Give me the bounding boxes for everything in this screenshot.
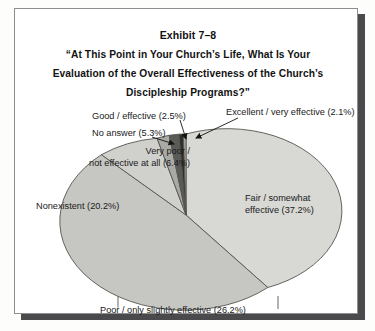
label-good: Good / effective (2.5%) — [92, 111, 186, 123]
label-very-poor-line1: Very poor / — [42, 146, 190, 158]
label-fair-line2: effective (37.2%) — [245, 205, 314, 217]
label-excellent: Excellent / very effective (2.1%) — [226, 107, 355, 119]
label-poor: Poor / only slightly effective (26.2%) — [100, 305, 246, 317]
label-fair-line1: Fair / somewhat — [245, 193, 314, 205]
label-no-answer: No answer (5.3%) — [92, 128, 166, 140]
label-very-poor-line2: not effective at all (6.4%) — [42, 158, 190, 170]
label-very-poor: Very poor / not effective at all (6.4%) — [42, 146, 190, 169]
label-nonexistent: Nonexistent (20.2%) — [36, 201, 119, 213]
pie-chart-figure: Exhibit 7–8 “At This Point in Your Churc… — [14, 8, 358, 314]
figure-shadow-right — [358, 14, 365, 320]
label-fair: Fair / somewhat effective (37.2%) — [245, 193, 314, 216]
